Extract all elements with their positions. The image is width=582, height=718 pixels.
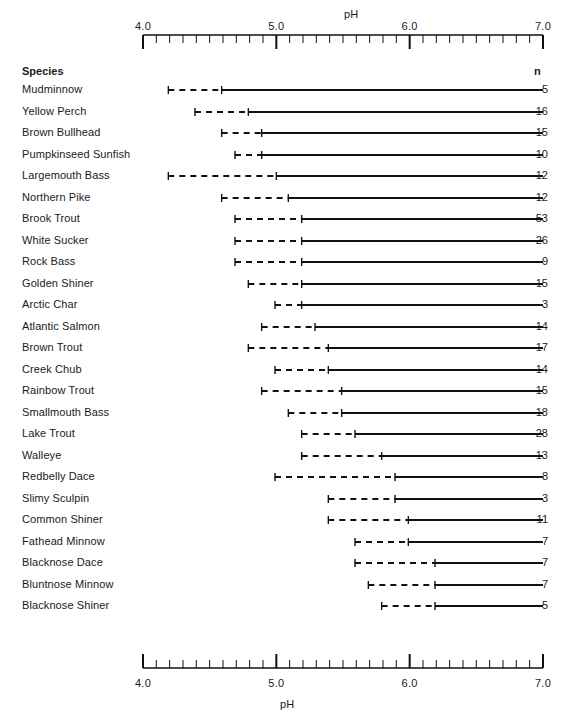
species-row: Lake Trout28 xyxy=(0,423,582,445)
range-bar xyxy=(0,208,582,230)
species-row: Arctic Char3 xyxy=(0,294,582,316)
species-row: Yellow Perch16 xyxy=(0,101,582,123)
species-row: Creek Chub14 xyxy=(0,359,582,381)
species-row: White Sucker26 xyxy=(0,230,582,252)
range-bar xyxy=(0,402,582,424)
range-bar xyxy=(0,79,582,101)
species-row: Rainbow Trout15 xyxy=(0,380,582,402)
range-bar xyxy=(0,251,582,273)
species-row: Bluntnose Minnow7 xyxy=(0,574,582,596)
range-bar xyxy=(0,552,582,574)
species-row: Slimy Sculpin3 xyxy=(0,488,582,510)
species-row: Smallmouth Bass18 xyxy=(0,402,582,424)
species-row: Walleye13 xyxy=(0,445,582,467)
tick-label-4-0: 4.0 xyxy=(135,677,151,689)
range-bar xyxy=(0,187,582,209)
bottom-axis-rule xyxy=(0,648,582,670)
range-bar xyxy=(0,359,582,381)
ph-tolerance-chart: pH 4.05.06.07.0 Species n Mudminnow5Yell… xyxy=(0,0,582,718)
species-row: Brown Bullhead15 xyxy=(0,122,582,144)
species-rows: Mudminnow5Yellow Perch16Brown Bullhead15… xyxy=(0,0,582,718)
range-bar xyxy=(0,273,582,295)
range-bar xyxy=(0,466,582,488)
species-row: Largemouth Bass12 xyxy=(0,165,582,187)
bottom-axis-title: pH xyxy=(280,698,294,710)
species-row: Blacknose Dace7 xyxy=(0,552,582,574)
range-bar xyxy=(0,445,582,467)
tick-label-6-0: 6.0 xyxy=(402,677,418,689)
species-row: Golden Shiner15 xyxy=(0,273,582,295)
species-row: Brown Trout17 xyxy=(0,337,582,359)
species-row: Mudminnow5 xyxy=(0,79,582,101)
species-row: Brook Trout53 xyxy=(0,208,582,230)
range-bar xyxy=(0,337,582,359)
range-bar xyxy=(0,509,582,531)
range-bar xyxy=(0,316,582,338)
species-row: Blacknose Shiner5 xyxy=(0,595,582,617)
range-bar xyxy=(0,230,582,252)
range-bar xyxy=(0,294,582,316)
species-row: Pumpkinseed Sunfish10 xyxy=(0,144,582,166)
range-bar xyxy=(0,380,582,402)
species-row: Redbelly Dace8 xyxy=(0,466,582,488)
range-bar xyxy=(0,488,582,510)
tick-label-7-0: 7.0 xyxy=(535,677,551,689)
species-row: Common Shiner11 xyxy=(0,509,582,531)
range-bar xyxy=(0,595,582,617)
range-bar xyxy=(0,122,582,144)
species-row: Rock Bass9 xyxy=(0,251,582,273)
range-bar xyxy=(0,423,582,445)
range-bar xyxy=(0,144,582,166)
range-bar xyxy=(0,165,582,187)
range-bar xyxy=(0,531,582,553)
species-row: Northern Pike12 xyxy=(0,187,582,209)
range-bar xyxy=(0,574,582,596)
range-bar xyxy=(0,101,582,123)
tick-label-5-0: 5.0 xyxy=(268,677,284,689)
species-row: Atlantic Salmon14 xyxy=(0,316,582,338)
species-row: Fathead Minnow7 xyxy=(0,531,582,553)
